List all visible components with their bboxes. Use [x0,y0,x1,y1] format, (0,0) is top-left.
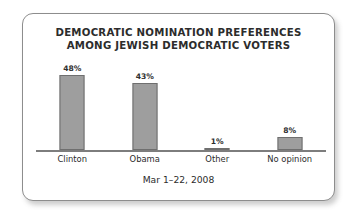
bar-slot: 1% [181,56,254,150]
bar-slot: 8% [254,56,327,150]
bar-value-label: 48% [63,65,81,73]
bar-no-opinion [277,137,302,150]
chart-title-line-1: DEMOCRATIC NOMINATION PREFERENCES [23,27,334,40]
bar-value-label: 1% [211,138,224,146]
bar-clinton [60,75,85,150]
chart-title-line-2: AMONG JEWISH DEMOCRATIC VOTERS [23,40,334,53]
axis-label-obama: Obama [109,154,182,164]
bar-obama [132,83,157,150]
bar-value-label: 8% [283,127,296,135]
axis-label-clinton: Clinton [36,154,109,164]
bar-value-label: 43% [136,73,154,81]
bar-slot: 48% [36,56,109,150]
chart-card: DEMOCRATIC NOMINATION PREFERENCES AMONG … [22,13,335,201]
bar-group-no-opinion: 8% [277,127,302,150]
bar-group-clinton: 48% [60,65,85,150]
bar-group-other: 1% [205,138,230,150]
bar-slot: 43% [109,56,182,150]
chart-caption: Mar 1–22, 2008 [23,174,334,185]
x-axis-labels: Clinton Obama Other No opinion [36,154,326,168]
axis-label-other: Other [181,154,254,164]
bar-group-obama: 43% [132,73,157,150]
x-axis-line [36,150,326,152]
chart-title: DEMOCRATIC NOMINATION PREFERENCES AMONG … [23,27,334,52]
axis-label-no-opinion: No opinion [254,154,327,164]
bar-chart-plot-area: 48% 43% 1% 8% [36,56,326,150]
